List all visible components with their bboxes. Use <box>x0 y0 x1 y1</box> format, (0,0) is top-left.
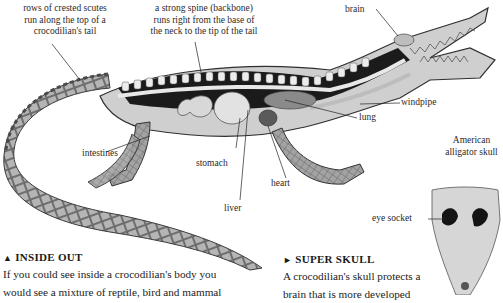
label-spine-line-3: the neck to the tip of the tail <box>130 26 278 38</box>
caption-inside-out-line-2: would see a mixture of reptile, bird and… <box>3 283 221 301</box>
caption-inside-out-line-1: If you could see inside a crocodilian's … <box>3 265 221 283</box>
alligator-skull <box>432 187 500 295</box>
heart-organ <box>259 110 277 126</box>
label-brain: brain <box>345 4 365 16</box>
stomach-organ <box>214 92 250 124</box>
label-intestines: intestines <box>82 148 118 160</box>
label-lung: lung <box>359 112 376 124</box>
label-scutes-line-2: run along the top of a <box>4 15 126 27</box>
caption-super-skull-line-2: brain that is more developed <box>283 285 420 303</box>
caption-inside-out-heading: ▲INSIDE OUT <box>3 250 221 265</box>
label-liver: liver <box>224 203 241 215</box>
label-eye-socket: eye socket <box>372 213 412 225</box>
label-spine-line-2: runs right from the base of <box>130 15 278 27</box>
caption-inside-out: ▲INSIDE OUT If you could see inside a cr… <box>3 250 221 301</box>
label-spine-line-1: a strong spine (backbone) <box>130 3 278 15</box>
triangle-up-icon: ▲ <box>3 251 12 265</box>
brain-organ <box>394 34 414 46</box>
label-windpipe: windpipe <box>401 97 436 109</box>
label-stomach: stomach <box>196 158 228 170</box>
label-scutes-line-1: rows of crested scutes <box>4 3 126 15</box>
caption-super-skull-title: SUPER SKULL <box>295 253 374 265</box>
label-skull-title-line-2: alligator skull <box>440 147 503 159</box>
caption-inside-out-title: INSIDE OUT <box>15 251 83 263</box>
label-spine: a strong spine (backbone) runs right fro… <box>130 3 278 38</box>
label-skull-title: American alligator skull <box>440 135 503 158</box>
caption-super-skull: ►SUPER SKULL A crocodilian's skull prote… <box>283 252 420 303</box>
lung-organ <box>264 91 316 109</box>
label-scutes: rows of crested scutes run along the top… <box>4 3 126 38</box>
label-skull-title-line-1: American <box>440 135 503 147</box>
label-scutes-line-3: crocodilian's tail <box>4 26 126 38</box>
triangle-right-icon: ► <box>283 253 292 267</box>
caption-super-skull-line-1: A crocodilian's skull protects a <box>283 267 420 285</box>
label-heart: heart <box>271 178 290 190</box>
caption-super-skull-heading: ►SUPER SKULL <box>283 252 420 267</box>
